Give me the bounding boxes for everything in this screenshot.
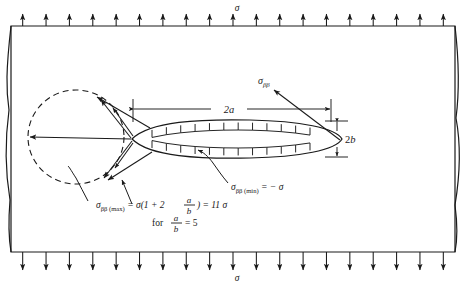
major-axis-label: 2a — [224, 104, 235, 115]
sigma-min-label: σββ (min) = − σ — [231, 182, 284, 195]
sigma-bb-sub: ββ — [262, 81, 270, 88]
condition-fraction-denominator: b — [174, 224, 179, 234]
condition-prefix: for — [152, 218, 164, 228]
eq-fraction-numerator: a — [187, 195, 192, 205]
equation-condition: for a b = 5 — [152, 213, 198, 234]
minor-axis-label: 2b — [345, 134, 356, 145]
condition-suffix: = 5 — [185, 218, 198, 228]
eq-fraction-denominator: b — [187, 206, 192, 216]
elliptical-hole — [132, 120, 342, 158]
bottom-sigma-label: σ — [235, 273, 240, 283]
bottom-load-arrows — [23, 252, 444, 270]
stress-diagram-figure: 2a 2b σββ σββ (min) = − σ — [0, 0, 464, 283]
top-sigma-label: σ — [235, 3, 240, 13]
condition-fraction-numerator: a — [174, 213, 179, 223]
eq-part-2: ) = 11 σ — [196, 200, 227, 211]
tip-stress-vectors — [30, 100, 133, 178]
sigma-beta-beta-label: σββ — [258, 75, 270, 88]
stress-concentration-equation: σββ (max) = σ(1 + 2 a b ) = 11 σ — [96, 195, 227, 216]
top-load-arrows — [23, 14, 444, 26]
eq-part-1: = σ(1 + 2 — [125, 200, 165, 211]
diagram-canvas: 2a 2b σββ σββ (min) = − σ — [0, 0, 464, 283]
sigma-max-callout-line — [68, 166, 132, 204]
sigma-min-rest: = − σ — [259, 182, 284, 192]
sigma-min-sub: ββ (min) — [236, 187, 259, 195]
